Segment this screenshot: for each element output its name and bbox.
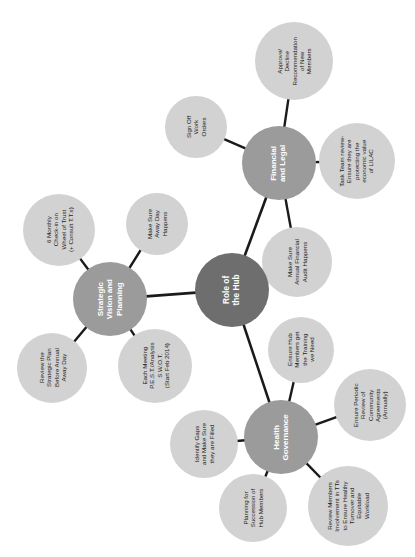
branch-health-governance[interactable]: Health Governance [244, 400, 318, 474]
leaf-identify-gaps-label: Identify Gaps and Make Sure they are Fil… [193, 423, 215, 465]
branch-financial-and-legal[interactable]: Financial and Legal [242, 126, 316, 200]
leaf-each-meeting-pest-swot-label: Each Meeting P.E.S.T./Analysis S.W.O.T. … [140, 343, 169, 389]
leaf-six-monthly-check-in[interactable]: 6 Monthly Check-in on Wheel of Trust (+ … [23, 194, 95, 266]
leaf-review-members-involvement[interactable]: Review Members Involvement in TTs to Ens… [308, 466, 388, 546]
leaf-approve-decline-recommendation-label: Approve/ Decline Recommendation of New M… [276, 37, 313, 86]
leaf-sign-off-work-orders-label: Sign Off Work Orders [185, 116, 207, 138]
leaf-sign-off-work-orders[interactable]: Sign Off Work Orders [165, 96, 227, 158]
branch-financial-and-legal-label: Financial and Legal [270, 144, 289, 181]
mind-map-edge [146, 293, 196, 297]
leaf-periodic-review-agreements[interactable]: Ensure Periodic Review of Community Agre… [334, 369, 406, 441]
mind-map-edge [243, 324, 269, 403]
leaf-make-sure-away-day-happens[interactable]: Make Sure Away Day Happens [126, 193, 188, 255]
mind-map-edge [289, 381, 294, 402]
center-node[interactable]: Role of the Hub [195, 253, 269, 327]
mind-map-edge [244, 197, 266, 256]
mind-map-canvas: Approve/ Decline Recommendation of New M… [0, 0, 415, 557]
mind-map-edge [224, 139, 246, 149]
mind-map-edge [306, 463, 321, 478]
leaf-task-team-review[interactable]: Task Team review- Ensure they are protec… [319, 123, 395, 199]
leaf-ensure-hub-training-label: Ensure Hub Members get the Training we N… [286, 332, 315, 368]
leaf-periodic-review-agreements-label: Ensure Periodic Review of Community Agre… [352, 383, 389, 427]
leaf-task-team-review-label: Task Team review- Ensure they are protec… [339, 135, 376, 186]
leaf-approve-decline-recommendation[interactable]: Approve/ Decline Recommendation of New M… [255, 22, 333, 100]
leaf-annual-financial-audit-label: Make Sure Annual Financial Audit Happens [286, 239, 308, 285]
leaf-review-members-involvement-label: Review Members Involvement in TTs to Ens… [326, 480, 370, 531]
branch-strategic-vision-and-planning-label: Strategic Vision and Planning [96, 279, 124, 319]
leaf-ensure-hub-training[interactable]: Ensure Hub Members get the Training we N… [268, 317, 334, 383]
mind-map-edge [285, 198, 290, 228]
center-node-label: Role of the Hub [222, 274, 242, 305]
leaf-annual-financial-audit[interactable]: Make Sure Annual Financial Audit Happens [262, 227, 332, 297]
leaf-identify-gaps[interactable]: Identify Gaps and Make Sure they are Fil… [170, 410, 238, 478]
leaf-six-monthly-check-in-label: 6 Monthly Check-in on Wheel of Trust (+ … [44, 208, 73, 253]
mind-map-edge [284, 99, 288, 128]
mind-map-edge [74, 327, 87, 342]
leaf-review-strategic-plan[interactable]: Review the Strategic Plan Before Annual … [17, 333, 87, 403]
branch-health-governance-label: Health Governance [272, 414, 291, 460]
leaf-review-strategic-plan-label: Review the Strategic Plan Before Annual … [37, 349, 66, 388]
mind-map-edge [129, 249, 141, 268]
leaf-make-sure-away-day-happens-label: Make Sure Away Day Happens [146, 209, 168, 239]
leaf-planning-for-succession-label: Planning for Succession of Hub Members [242, 489, 264, 528]
leaf-planning-for-succession[interactable]: Planning for Succession of Hub Members [219, 474, 287, 542]
leaf-each-meeting-pest-swot[interactable]: Each Meeting P.E.S.T./Analysis S.W.O.T. … [118, 329, 192, 403]
mind-map-edge [315, 417, 337, 425]
branch-strategic-vision-and-planning[interactable]: Strategic Vision and Planning [73, 262, 147, 336]
